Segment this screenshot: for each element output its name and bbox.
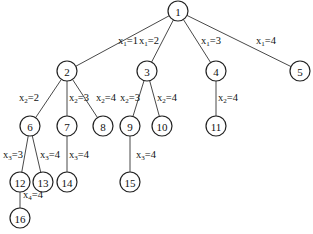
tree-node: 12 xyxy=(10,172,30,192)
tree-node: 14 xyxy=(57,172,77,192)
node-label: 15 xyxy=(125,177,137,189)
node-label: 5 xyxy=(297,66,303,78)
tree-node: 2 xyxy=(57,61,77,81)
node-label: 11 xyxy=(211,121,222,133)
tree-node: 6 xyxy=(20,116,40,136)
edge-label: x1=4 xyxy=(256,35,277,48)
edge-label: x3=4 xyxy=(69,149,90,162)
tree-node: 1 xyxy=(168,1,188,21)
node-label: 6 xyxy=(27,121,33,133)
tree-node: 3 xyxy=(137,61,157,81)
tree-node: 8 xyxy=(93,116,113,136)
tree-node: 4 xyxy=(206,61,226,81)
edge-label: x1=3 xyxy=(201,35,221,48)
node-label: 12 xyxy=(15,177,26,189)
tree-node: 10 xyxy=(152,116,172,136)
edge-label: x2=3 xyxy=(69,92,89,105)
node-label: 9 xyxy=(127,121,133,133)
edge-label: x2=4 xyxy=(96,92,117,105)
node-label: 7 xyxy=(64,121,70,133)
tree-edge xyxy=(36,79,62,117)
tree-node: 15 xyxy=(120,172,140,192)
node-label: 14 xyxy=(62,177,74,189)
tree-node: 13 xyxy=(33,172,53,192)
edge-label: x3=4 xyxy=(40,149,61,162)
edge-label: x3=3 xyxy=(3,149,23,162)
tree-node: 11 xyxy=(206,116,226,136)
edge-label: x2=2 xyxy=(19,92,39,105)
node-label: 4 xyxy=(213,66,219,78)
edge-label: x2=4 xyxy=(218,92,239,105)
node-label: 3 xyxy=(144,66,150,78)
tree-node: 9 xyxy=(120,116,140,136)
tree-node: 7 xyxy=(57,116,77,136)
search-tree-diagram: x1=1x1=2x1=3x1=4x2=2x2=3x2=4x2=3x2=4x2=4… xyxy=(0,0,313,234)
node-label: 10 xyxy=(157,121,169,133)
node-label: 2 xyxy=(64,66,70,78)
node-label: 13 xyxy=(38,177,50,189)
edge-label: x1=1 xyxy=(118,35,138,48)
tree-node: 5 xyxy=(290,61,310,81)
node-label: 8 xyxy=(100,121,106,133)
node-label: 16 xyxy=(15,213,27,225)
node-label: 1 xyxy=(175,6,181,18)
edge-label: x2=4 xyxy=(157,92,178,105)
tree-node: 16 xyxy=(10,208,30,228)
edge-label: x1=2 xyxy=(139,35,159,48)
edge-label: x3=4 xyxy=(136,149,157,162)
